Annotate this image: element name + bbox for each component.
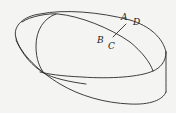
- label-a: A: [121, 13, 128, 22]
- label-d: D: [133, 18, 140, 27]
- band-diagram: A D B C: [0, 0, 176, 113]
- band-drawing: [0, 0, 176, 113]
- outer-top-edge: [15, 12, 166, 52]
- left-crossing-edge: [16, 40, 86, 84]
- inner-left-edge: [36, 14, 56, 73]
- label-c: C: [108, 42, 115, 51]
- front-wall-top-edge: [40, 52, 166, 78]
- label-b: B: [97, 36, 104, 45]
- outer-left-edge: [16, 38, 166, 104]
